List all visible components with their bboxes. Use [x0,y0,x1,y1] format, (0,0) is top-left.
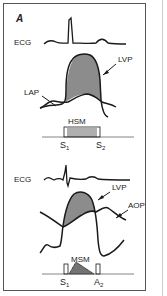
top-s1-label: S1 [60,140,70,151]
bottom-lvp-label: LVP [112,183,127,192]
top-s2-label: S2 [96,140,106,151]
top-lap-label: LAP [24,88,39,97]
bottom-s1-label: S1 [60,277,70,288]
top-lvp-label: LVP [118,55,133,64]
top-hsm-vibrations [68,128,96,137]
top-panel: ECG LVP LAP HSM S1 S2 [14,18,134,151]
bottom-aop-label: AOP [128,201,145,210]
top-ecg-trace [44,18,126,44]
bottom-ecg-label: ECG [14,175,31,184]
bottom-a2-label: A2 [94,277,104,288]
bottom-s1-sound [64,264,68,274]
bottom-a2-sound [96,264,100,274]
bottom-panel: ECG LVP AOP MSM S1 A2 [14,165,145,288]
bottom-murmur-label: MSM [71,255,90,264]
panel-label: A [15,13,23,24]
top-murmur-label: HSM [68,117,86,126]
top-ecg-label: ECG [14,38,31,47]
bottom-lvp-arrowhead [98,195,104,200]
diagram-canvas: A ECG LVP LAP HSM S1 S2 ECG [0,0,167,296]
